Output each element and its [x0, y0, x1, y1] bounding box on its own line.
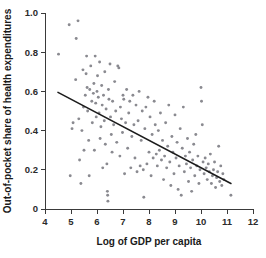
data-point [154, 123, 157, 126]
data-point [129, 166, 132, 169]
data-point [149, 115, 152, 118]
data-point [88, 88, 91, 91]
y-tick-label: 0.6 [25, 86, 38, 97]
data-point [196, 155, 199, 158]
x-tick-label: 8 [146, 216, 151, 227]
data-point [166, 145, 169, 148]
data-point [190, 190, 193, 193]
data-point [91, 121, 94, 124]
data-point [111, 100, 114, 103]
data-point [207, 162, 210, 165]
data-point [103, 119, 106, 122]
data-point [155, 153, 158, 156]
x-axis-title: Log of GDP per capita [97, 236, 202, 247]
data-point [185, 162, 188, 165]
x-tick-label: 10 [196, 216, 207, 227]
data-point [148, 151, 151, 154]
data-point [229, 194, 232, 197]
data-point [57, 53, 60, 56]
data-point [92, 92, 95, 95]
data-point [141, 110, 144, 113]
data-point [160, 159, 163, 162]
data-point [92, 82, 95, 85]
data-point [187, 180, 190, 183]
data-point [216, 170, 219, 173]
data-point [175, 157, 178, 160]
data-point [102, 94, 105, 97]
data-point [122, 94, 125, 97]
data-point [140, 139, 143, 142]
data-point [201, 123, 204, 126]
data-point [98, 61, 101, 64]
data-point [86, 86, 89, 89]
data-point [170, 135, 173, 138]
data-point [159, 112, 162, 115]
data-point [69, 174, 72, 177]
data-point [194, 133, 197, 136]
data-point [127, 112, 130, 115]
data-point [75, 37, 78, 40]
data-point [128, 100, 131, 103]
data-point [192, 143, 195, 146]
data-point [189, 166, 192, 169]
data-point [217, 145, 220, 148]
data-point [142, 168, 145, 171]
x-tick-label: 12 [248, 216, 259, 227]
data-point [113, 80, 116, 83]
data-point [200, 100, 203, 103]
data-point [205, 166, 208, 169]
data-point [202, 161, 205, 164]
data-point [183, 170, 186, 173]
data-point [179, 127, 182, 130]
data-point [203, 172, 206, 175]
data-points [57, 19, 232, 202]
data-point [177, 188, 180, 191]
data-point [181, 147, 184, 150]
data-point [82, 68, 85, 71]
data-point [90, 100, 93, 103]
data-point [210, 182, 213, 185]
data-point [186, 137, 189, 140]
y-tick-label: 0.4 [25, 125, 39, 136]
data-point [68, 23, 71, 26]
data-point [144, 106, 147, 109]
data-point [96, 90, 99, 93]
data-point [184, 155, 187, 158]
data-point [206, 178, 209, 181]
data-point [123, 172, 126, 175]
data-point [193, 174, 196, 177]
data-point [114, 110, 117, 113]
data-point [176, 141, 179, 144]
data-point [150, 174, 153, 177]
data-point [145, 162, 148, 165]
data-point [106, 190, 109, 193]
data-point [101, 166, 104, 169]
data-point [161, 139, 164, 142]
data-point [151, 133, 154, 136]
data-point [109, 115, 112, 118]
data-point [86, 110, 89, 113]
data-point [105, 108, 108, 111]
data-point [78, 159, 81, 162]
x-tick-label: 9 [172, 216, 177, 227]
data-point [163, 155, 166, 158]
data-point [200, 86, 203, 89]
data-point [131, 94, 134, 97]
data-point [89, 64, 92, 67]
x-tick-label: 7 [120, 216, 125, 227]
data-point [83, 149, 86, 152]
data-point [197, 182, 200, 185]
scatter-plot: 00.20.40.60.81.0456789101112Log of GDP p… [0, 0, 266, 258]
data-point [178, 164, 181, 167]
y-tick-label: 0 [33, 203, 38, 214]
data-point [121, 131, 124, 134]
data-point [130, 135, 133, 138]
data-point [173, 172, 176, 175]
data-point [219, 164, 222, 167]
data-point [97, 96, 100, 99]
data-point [93, 149, 96, 152]
data-point [162, 178, 165, 181]
y-tick-label: 0.8 [25, 47, 38, 58]
x-tick-label: 11 [222, 216, 233, 227]
axis-labels: 00.20.40.60.81.0456789101112Log of GDP p… [2, 7, 258, 247]
